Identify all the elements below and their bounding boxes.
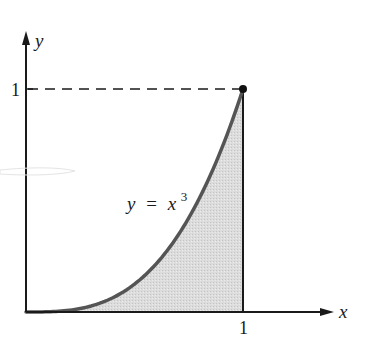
chart-figure: y 1 1 x y = x 3 <box>0 0 365 338</box>
function-label-lhs: y <box>125 193 136 214</box>
function-label-eq: = <box>146 193 157 214</box>
endpoint-dot <box>239 85 247 93</box>
chart-svg: y 1 1 x y = x 3 <box>0 0 365 338</box>
scan-smudge <box>0 168 75 175</box>
function-label: y = x 3 <box>125 189 187 214</box>
function-label-exponent: 3 <box>181 189 188 204</box>
x-axis-arrow-icon <box>320 308 334 316</box>
y-tick-label-1: 1 <box>11 80 20 100</box>
function-label-base: x <box>167 193 177 214</box>
x-axis-label: x <box>338 301 348 322</box>
y-axis-arrow-icon <box>22 31 30 45</box>
x-tick-label-1: 1 <box>239 318 248 338</box>
y-axis-label: y <box>33 30 44 51</box>
